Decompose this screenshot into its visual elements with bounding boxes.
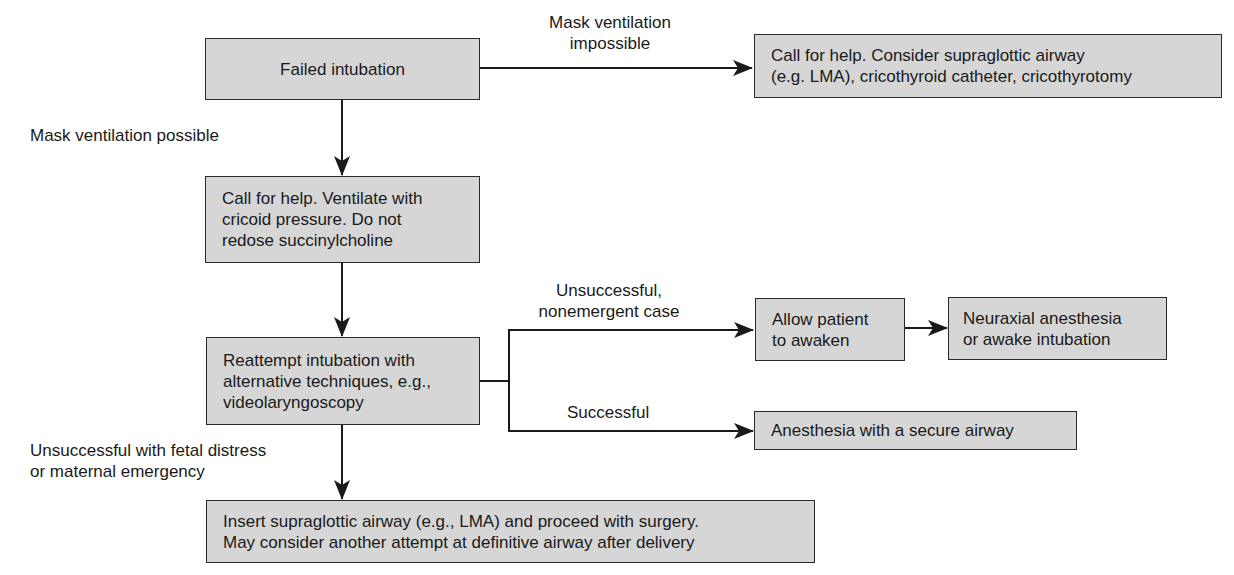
node-text: Neuraxial anesthesia: [963, 308, 1154, 329]
node-text: to awaken: [772, 330, 892, 351]
node-text: Reattempt intubation with: [223, 350, 467, 371]
label-line: impossible: [537, 33, 683, 54]
node-text: cricoid pressure. Do not: [222, 209, 467, 230]
node-secure-airway: Anesthesia with a secure airway: [754, 411, 1077, 450]
label-line: Unsuccessful with fetal distress: [30, 440, 266, 461]
edge-label-unsuccessful-fetal: Unsuccessful with fetal distress or mate…: [30, 440, 266, 482]
node-text: Failed intubation: [280, 59, 405, 80]
edge-label-successful: Successful: [567, 402, 649, 423]
node-call-help-ventilate: Call for help. Ventilate with cricoid pr…: [205, 176, 480, 263]
node-allow-awaken: Allow patient to awaken: [755, 298, 905, 361]
label-line: Successful: [567, 402, 649, 423]
node-text: Call for help. Consider supraglottic air…: [771, 45, 1209, 66]
node-text: redose succinylcholine: [222, 230, 467, 251]
node-text: or awake intubation: [963, 329, 1154, 350]
edge-label-mask-impossible: Mask ventilation impossible: [537, 12, 683, 54]
node-text: May consider another attempt at definiti…: [223, 532, 802, 553]
node-text: Call for help. Ventilate with: [222, 188, 467, 209]
label-line: Mask ventilation possible: [30, 125, 219, 146]
edge-label-unsuccessful-nonemergent: Unsuccessful, nonemergent case: [530, 280, 688, 322]
edge-label-mask-possible: Mask ventilation possible: [30, 125, 219, 146]
arrow-unsuccessful-nonemergent: [509, 330, 753, 381]
node-text: alternative techniques, e.g.,: [223, 371, 467, 392]
node-text: Allow patient: [772, 309, 892, 330]
label-line: or maternal emergency: [30, 461, 266, 482]
node-call-help-airway: Call for help. Consider supraglottic air…: [754, 34, 1222, 98]
node-failed-intubation: Failed intubation: [205, 38, 480, 100]
node-text: videolaryngoscopy: [223, 392, 467, 413]
label-line: Unsuccessful,: [530, 280, 688, 301]
node-reattempt-intubation: Reattempt intubation with alternative te…: [206, 337, 480, 425]
node-neuraxial: Neuraxial anesthesia or awake intubation: [948, 297, 1167, 360]
node-text: Insert supraglottic airway (e.g., LMA) a…: [223, 511, 802, 532]
node-text: (e.g. LMA), cricothyroid catheter, crico…: [771, 66, 1209, 87]
label-line: Mask ventilation: [537, 12, 683, 33]
node-text: Anesthesia with a secure airway: [771, 420, 1064, 441]
node-insert-sga: Insert supraglottic airway (e.g., LMA) a…: [206, 500, 815, 563]
label-line: nonemergent case: [530, 301, 688, 322]
